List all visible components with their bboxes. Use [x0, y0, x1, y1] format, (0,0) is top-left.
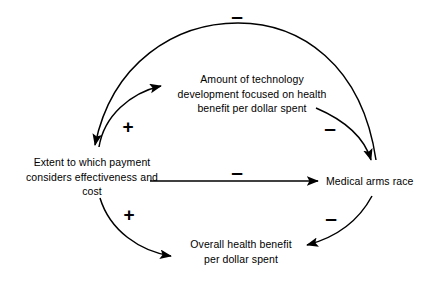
polarity-upper-left-plus: + [120, 117, 136, 136]
diagram-canvas: Extent to which payment considers effect… [0, 0, 436, 283]
link-arms-race-to-benefit [307, 196, 372, 245]
node-overall-health-benefit[interactable]: Overall health benefit per dollar spent [176, 237, 306, 266]
node-extent-to-which-payment[interactable]: Extent to which payment considers effect… [6, 155, 178, 199]
polarity-lower-left-plus: + [121, 205, 137, 224]
polarity-lower-right-minus: – [323, 207, 339, 228]
node-medical-arms-race[interactable]: Medical arms race [326, 174, 434, 189]
polarity-top-minus: – [229, 5, 245, 26]
node-amount-of-technology-development[interactable]: Amount of technology development focused… [172, 72, 332, 116]
polarity-center-minus: – [229, 161, 245, 182]
polarity-upper-right-minus: – [322, 117, 338, 138]
